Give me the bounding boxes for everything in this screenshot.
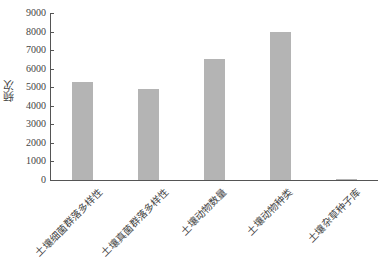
y-tick-label: 6000 <box>26 64 46 74</box>
y-tick <box>50 180 54 181</box>
y-tick-label: 5000 <box>26 82 46 92</box>
y-tick <box>50 32 54 33</box>
y-tick-label: 2000 <box>26 138 46 148</box>
y-tick-label: 0 <box>41 175 46 185</box>
x-axis-line <box>50 180 378 181</box>
bar <box>204 59 225 180</box>
x-tick-label: 土壤动物种类 <box>245 187 294 236</box>
y-tick <box>50 124 54 125</box>
y-tick <box>50 87 54 88</box>
y-tick <box>50 143 54 144</box>
y-tick-label: 8000 <box>26 27 46 37</box>
bar <box>138 89 159 180</box>
x-tick-label: 土壤动物数量 <box>179 187 228 236</box>
bar <box>336 179 357 180</box>
y-axis-title: 频次 <box>4 80 18 102</box>
y-tick-label: 1000 <box>26 156 46 166</box>
y-tick-label: 7000 <box>26 45 46 55</box>
bar <box>72 82 93 180</box>
y-tick <box>50 13 54 14</box>
bar <box>270 32 291 180</box>
y-tick <box>50 50 54 51</box>
x-tick-label: 土壤细菌群落多样性 <box>34 187 105 258</box>
y-tick <box>50 161 54 162</box>
y-tick-label: 9000 <box>26 8 46 18</box>
x-tick-label: 土壤真菌群落多样性 <box>100 187 171 258</box>
y-tick-label: 3000 <box>26 119 46 129</box>
y-tick <box>50 106 54 107</box>
x-tick-label: 土壤杂草种子库 <box>306 187 363 244</box>
y-tick <box>50 69 54 70</box>
bar-chart: 频次 0100020003000400050006000700080009000… <box>0 0 385 262</box>
y-axis-line <box>50 13 51 181</box>
y-tick-label: 4000 <box>26 101 46 111</box>
